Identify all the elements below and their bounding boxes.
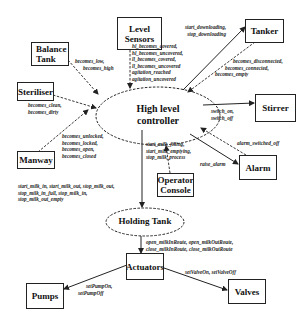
edge-label-line: becomes_high — [75, 65, 114, 72]
controller-line1: High level — [118, 103, 198, 115]
operator-console-node: Operator Console — [157, 173, 194, 197]
stirrer-label: Stirrer — [262, 103, 288, 113]
tanker-label: Tanker — [251, 26, 279, 36]
valves-label: Valves — [235, 287, 260, 297]
pumps-commands: setPumpOn, setPumpOff — [78, 283, 112, 296]
edge-label-line: becomes_low, — [75, 58, 114, 65]
manway-label: Manway — [19, 155, 53, 165]
tanker-commands: start_downloading, stop_downloading — [185, 24, 226, 37]
edge-label-line: agitation_uncovered — [132, 76, 183, 83]
edge-label-line: open_milkInRoute, open_milkOutRoute, — [146, 239, 233, 246]
tanker-events: becomes_disconnected, becomes_connected,… — [215, 58, 283, 78]
edge-label-line: stop_downloading — [185, 31, 226, 38]
edge-label-line: becomes_clean, — [28, 102, 62, 109]
alarm-label: Alarm — [246, 163, 271, 173]
edge-label-line: start_downloading, — [185, 24, 226, 31]
balance-tank-line2: Tank — [36, 54, 56, 64]
edge-label-line: becomes_locked, — [62, 140, 104, 147]
actuators-node: Actuators — [126, 253, 164, 280]
edge-label-line: becomes_dirty — [28, 109, 62, 116]
tanker-node: Tanker — [245, 19, 284, 43]
controller-label: High level controller — [118, 103, 198, 127]
actuators-label: Actuators — [126, 262, 164, 272]
alarm-events: alarm_switched_off — [237, 140, 279, 147]
steriliser-label: Steriliser — [18, 87, 53, 97]
edge-label-line: start_milk_in, start_milk_out, stop_milk… — [18, 183, 114, 190]
edge-label-line: setPumpOn, — [78, 283, 112, 290]
level-sensors-events: hl_becomes_covered, hl_becomes_uncovered… — [132, 43, 183, 83]
steriliser-node: Steriliser — [17, 82, 54, 101]
alarm-node: Alarm — [239, 155, 277, 180]
balance-tank-node: Balance Tank — [31, 42, 69, 66]
edge-label-line: ll_becomes_covered, — [132, 56, 183, 63]
controller-line2: controller — [118, 115, 198, 127]
edge-label-line: stop_milk_process — [146, 154, 191, 161]
edge-label-line: becomes_connected, — [215, 65, 283, 72]
pumps-label: Pumps — [32, 291, 59, 301]
edge-label-line: setPumpOff — [78, 290, 112, 297]
valves-commands: setValveOn, setValveOff — [185, 269, 236, 276]
edge-label-line: ll_becomes_uncovered — [132, 63, 183, 70]
steriliser-events: becomes_clean, becomes_dirty — [28, 102, 62, 115]
edge-label-line: agitation_reached — [132, 69, 183, 76]
manway-node: Manway — [17, 151, 55, 169]
holding-tank-text: Holding Tank — [119, 216, 172, 226]
edge-label-line: stop_milk_in_full, stop_milk_in, — [18, 190, 114, 197]
holding-tank-label: Holding Tank — [110, 215, 180, 227]
edge-label-line: becomes_unlocked, — [62, 133, 104, 140]
alarm-commands: raise_alarm — [200, 161, 226, 168]
pumps-node: Pumps — [26, 283, 64, 309]
edge-label-line: switch_on, — [211, 108, 234, 115]
edge-label-line: alarm_switched_off — [237, 140, 279, 147]
edge-alarm-out — [190, 134, 238, 164]
edge-label-line: raise_alarm — [200, 161, 226, 168]
stirrer-node: Stirrer — [255, 94, 296, 122]
actuators-commands: open_milkInRoute, open_milkOutRoute, clo… — [146, 239, 233, 252]
level-sensors-line1: Level — [129, 24, 150, 34]
edge-stirrer — [203, 103, 254, 105]
holding-tank-commands: start_milk_in, start_milk_out, stop_milk… — [18, 183, 114, 203]
edge-label-line: becomes_disconnected, — [215, 58, 283, 65]
edge-label-line: stop_milk_out_empty — [18, 196, 114, 203]
edge-label-line: start_milk_emptying, — [146, 148, 191, 155]
edge-label-line: becomes_empty — [215, 71, 283, 78]
valves-node: Valves — [228, 279, 266, 304]
level-sensors-line2: Sensors — [125, 34, 155, 44]
balance-tank-events: becomes_low, becomes_high — [75, 58, 114, 71]
edge-label-line: start_milk_filling, — [146, 141, 191, 148]
edge-label-line: switch_off — [211, 115, 234, 122]
manway-events: becomes_unlocked, becomes_locked, become… — [62, 133, 104, 159]
balance-tank-line1: Balance — [36, 44, 67, 54]
edge-label-line: hl_becomes_covered, — [132, 43, 183, 50]
edge-label-line: hl_becomes_uncovered, — [132, 50, 183, 57]
edge-label-line: close_milkInRoute, close_milkOutRoute — [146, 246, 233, 253]
stirrer-commands: switch_on, switch_off — [211, 108, 234, 121]
edge-label-line: becomes_open, — [62, 146, 104, 153]
edge-label-line: setValveOn, setValveOff — [185, 269, 236, 276]
operator-console-line2: Console — [160, 185, 191, 195]
edge-label-line: becomes_closed — [62, 153, 104, 160]
operator-console-events: start_milk_filling, start_milk_emptying,… — [146, 141, 191, 161]
operator-console-line1: Operator — [158, 175, 194, 185]
